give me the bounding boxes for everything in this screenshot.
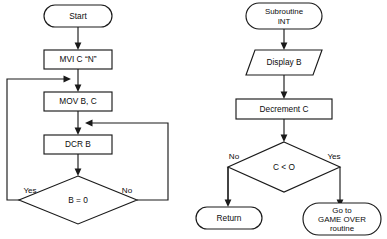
node-load-b: MOV B, C: [44, 92, 112, 111]
connector-mov-to-dcr: [75, 111, 82, 135]
arrow-head-icon: [281, 135, 288, 143]
arrow-head-icon: [75, 43, 82, 51]
node-display-b: Display B: [246, 50, 322, 75]
test-c-yes-label: Yes: [327, 152, 340, 161]
connector-decrement-to-test: [281, 119, 288, 142]
connector-start-to-init: [75, 27, 82, 50]
node-decrement-c: Decrement C: [236, 99, 332, 119]
test-c-label: C < O: [273, 162, 295, 172]
arrow-head-icon: [64, 76, 72, 83]
decrement-b-label: DCR B: [65, 139, 91, 149]
node-test-b: B = 0 Yes No: [19, 176, 137, 224]
node-decrement-b: DCR B: [44, 135, 112, 154]
display-b-label: Display B: [266, 57, 302, 67]
decrement-c-label: Decrement C: [260, 104, 309, 114]
game-over-line1: Go to: [332, 206, 352, 215]
subroutine-entry-line1: Subroutine: [265, 7, 304, 16]
return-label: Return: [217, 213, 242, 223]
subroutine-entry-line2: INT: [278, 17, 291, 26]
arrow-head-icon: [75, 85, 82, 93]
game-over-line3: routine: [330, 224, 355, 233]
test-b-no-label: No: [122, 186, 133, 195]
test-c-no-label: No: [229, 152, 240, 161]
start-label: Start: [69, 11, 87, 21]
arrow-head-icon: [225, 200, 232, 208]
flowchart-canvas: Start MVI C “N” MOV B, C: [0, 0, 387, 239]
connector-yes-to-gameover: [337, 167, 344, 207]
connector-dcr-to-test: [75, 154, 82, 176]
test-b-label: B = 0: [68, 195, 88, 205]
node-subroutine-entry: Subroutine INT: [246, 3, 322, 29]
node-return: Return: [196, 207, 262, 229]
load-b-label: MOV B, C: [59, 96, 96, 106]
connector-no-to-return: [225, 167, 232, 207]
game-over-line2: GAME OVER: [318, 215, 366, 224]
node-init-counter: MVI C “N”: [44, 50, 112, 69]
connector-entry-to-display: [281, 29, 288, 50]
arrow-head-icon: [75, 128, 82, 136]
arrow-head-icon: [281, 43, 288, 51]
arrow-head-icon: [75, 169, 82, 177]
init-counter-label: MVI C “N”: [60, 54, 97, 64]
arrow-head-icon: [281, 92, 288, 100]
connector-display-to-decrement: [281, 75, 288, 99]
node-start: Start: [44, 5, 112, 27]
node-test-c: C < O No Yes: [228, 142, 341, 192]
arrow-head-icon: [85, 120, 93, 127]
flowchart-diagram: Start MVI C “N” MOV B, C: [0, 0, 387, 239]
node-game-over: Go to GAME OVER routine: [303, 203, 381, 235]
test-b-yes-label: Yes: [23, 186, 36, 195]
connector-init-to-mov: [75, 69, 82, 92]
